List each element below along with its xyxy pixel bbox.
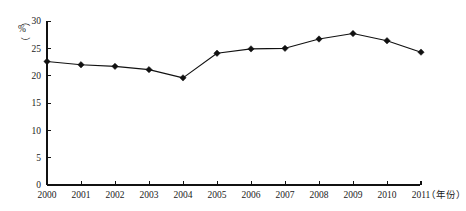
x-axis: 2000200120022003200420052006200720082009… [38,181,431,200]
data-point-marker: 2003: 21.1 [146,66,152,72]
y-tick-label: 5 [36,153,41,163]
x-tick-label: 2001 [72,190,91,200]
y-tick-label: 0 [36,180,41,190]
data-point-marker: 2000: 22.6 [44,58,50,64]
x-tick-label: 2005 [208,190,227,200]
x-tick-label: 2008 [310,190,329,200]
y-axis: 051015202530 [32,16,52,190]
y-tick-label: 15 [32,98,42,108]
x-axis-unit-label: （年份） [426,189,466,200]
data-point-marker: 2007: 25 [282,45,288,51]
y-axis-unit-char: % [18,24,26,34]
y-axis-unit-label: （%） [18,17,31,47]
x-tick-label: 2009 [344,190,363,200]
x-tick-label: 2007 [276,190,295,200]
x-tick-label: 2010 [378,190,397,200]
data-point-marker: 2009: 27.7 [350,30,356,36]
data-point-marker: 2006: 24.9 [248,46,254,52]
data-point-marker: 2010: 26.4 [384,37,390,43]
x-tick-label: 2006 [242,190,261,200]
x-tick-label: 2004 [174,190,193,200]
y-tick-label: 25 [32,44,42,54]
data-point-marker: 2002: 21.7 [112,63,118,69]
y-tick-label: 10 [32,126,42,136]
data-point-marker: 2008: 26.7 [316,36,322,42]
x-tick-label: 2000 [38,190,57,200]
x-tick-label: 2003 [140,190,159,200]
data-point-marker: 2011: 24.3 [418,49,424,55]
data-series: 2000: 22.62001: 222002: 21.72003: 21.120… [44,30,424,81]
y-axis-unit-char: ） [20,37,31,47]
y-tick-label: 20 [32,71,42,81]
chart-page: 051015202530 200020012002200320042005200… [0,0,466,211]
line-chart: 051015202530 200020012002200320042005200… [0,0,466,211]
data-point-marker: 2001: 22 [78,62,84,68]
x-tick-label: 2002 [106,190,125,200]
series-line [47,34,421,78]
y-tick-label: 30 [32,16,42,26]
